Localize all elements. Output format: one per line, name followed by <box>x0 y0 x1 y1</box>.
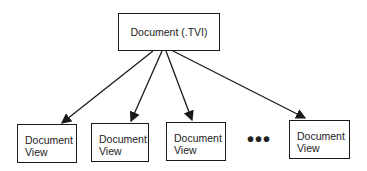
document-view-node-1: Document View <box>17 124 77 163</box>
view-label-line2: View <box>174 144 225 156</box>
document-view-node-2: Document View <box>91 123 149 162</box>
view-label-line2: View <box>297 142 349 154</box>
document-view-node-4: Document View <box>289 120 350 159</box>
view-label-line2: View <box>99 145 148 157</box>
view-label-line1: Document <box>174 132 225 144</box>
edge-root-to-view-1 <box>62 51 153 123</box>
view-label-line1: Document <box>25 134 76 146</box>
document-tvi-label: Document (.TVI) <box>130 26 207 38</box>
view-label-line1: Document <box>99 133 148 145</box>
document-tvi-node: Document (.TVI) <box>118 13 220 51</box>
view-label-line1: Document <box>297 130 349 142</box>
ellipsis: ••• <box>247 128 271 151</box>
edge-root-to-view-3 <box>166 51 192 120</box>
document-view-node-3: Document View <box>166 122 226 161</box>
edge-root-to-view-4 <box>173 51 305 118</box>
view-label-line2: View <box>25 146 76 158</box>
edge-root-to-view-2 <box>131 51 162 121</box>
